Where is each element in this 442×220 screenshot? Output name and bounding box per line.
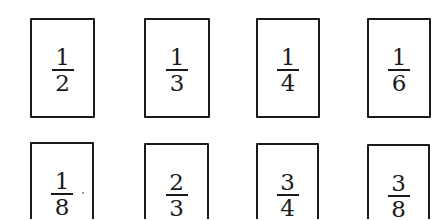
numerator: 1 xyxy=(281,46,296,68)
numerator: 1 xyxy=(55,170,70,192)
numerator: 1 xyxy=(392,46,407,68)
fraction-card-3-4: 3 4 xyxy=(256,143,319,219)
fraction-card-3-8: 3 8 xyxy=(367,144,430,219)
fraction-card-1-6: 1 6 xyxy=(367,18,431,118)
fraction-card-1-3: 1 3 xyxy=(144,18,210,118)
numerator: 1 xyxy=(55,46,70,68)
denominator: 6 xyxy=(392,72,407,94)
denominator: 2 xyxy=(55,72,70,94)
numerator: 2 xyxy=(169,171,184,193)
numerator: 3 xyxy=(391,172,406,194)
denominator: 3 xyxy=(170,72,185,94)
fraction-card-1-4: 1 4 xyxy=(256,18,320,118)
fraction-card-1-8: 1 8 xyxy=(30,142,94,219)
numerator: 3 xyxy=(280,171,295,193)
fraction: 1 6 xyxy=(369,46,429,94)
fraction: 2 3 xyxy=(146,171,207,219)
fraction-card-1-2: 1 2 xyxy=(30,18,95,118)
fraction-card-2-3: 2 3 xyxy=(144,143,209,219)
denominator: 4 xyxy=(281,72,296,94)
denominator: 8 xyxy=(391,198,406,220)
stray-dot-mark xyxy=(82,192,84,194)
numerator: 1 xyxy=(170,46,185,68)
fraction: 1 3 xyxy=(146,46,208,94)
fraction: 1 4 xyxy=(258,46,318,94)
denominator: 4 xyxy=(280,197,295,219)
fraction: 1 2 xyxy=(32,46,93,94)
denominator: 8 xyxy=(55,196,70,218)
fraction: 3 4 xyxy=(258,171,317,219)
fraction: 3 8 xyxy=(369,172,428,219)
denominator: 3 xyxy=(169,197,184,219)
